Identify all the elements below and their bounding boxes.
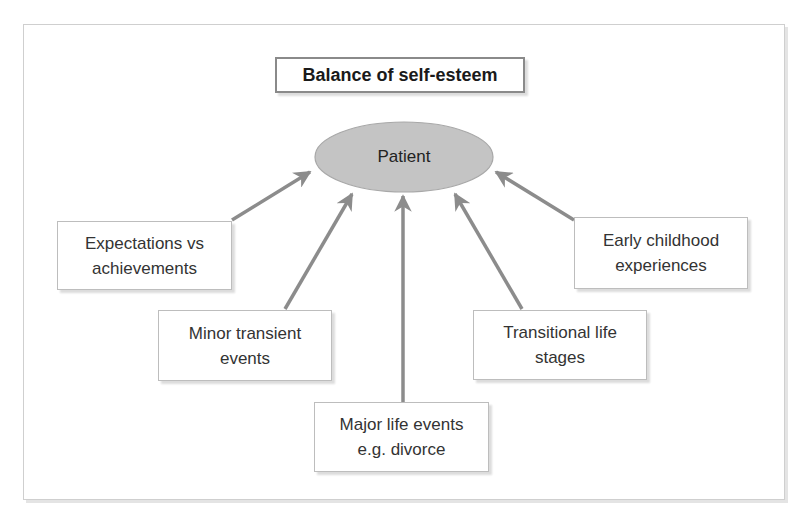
arrow-expectations (232, 172, 310, 220)
arrow-transitional (455, 194, 522, 309)
factor-transitional-life-stages: Transitional life stages (473, 310, 647, 380)
patient-label: Patient (315, 122, 493, 192)
arrow-early (496, 172, 574, 220)
factor-expectations: Expectations vs achievements (57, 221, 232, 290)
factor-early-childhood: Early childhood experiences (574, 217, 748, 289)
arrow-minor (285, 194, 352, 309)
factor-major-life-events: Major life events e.g. divorce (314, 402, 489, 472)
factor-minor-transient-events: Minor transient events (158, 310, 332, 381)
